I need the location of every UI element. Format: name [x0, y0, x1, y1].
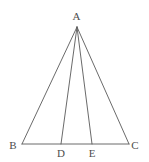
vertex-label-a: A: [72, 11, 82, 22]
geometry-figure: A B D E C: [0, 0, 149, 162]
vertex-label-e: E: [87, 148, 97, 159]
vertex-label-c: C: [130, 140, 140, 151]
vertex-label-b: B: [8, 140, 18, 151]
vertex-label-d: D: [56, 148, 66, 159]
triangle-diagram-svg: [0, 0, 149, 162]
segment-layer: [22, 27, 129, 144]
